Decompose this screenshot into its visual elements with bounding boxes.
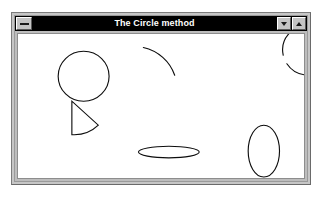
shape-tall-ellipse	[248, 125, 279, 177]
page-root: The Circle method	[0, 0, 322, 197]
window-inner-frame: The Circle method	[14, 15, 308, 182]
shape-pie-wedge	[72, 101, 98, 135]
window-menu-icon	[20, 23, 29, 25]
shape-canvas	[18, 34, 304, 178]
system-menu-button[interactable]	[16, 17, 32, 30]
shape-open-c-arc	[283, 34, 304, 75]
title-bar-buttons	[277, 17, 306, 30]
title-bar[interactable]: The Circle method	[15, 16, 307, 31]
shape-full-circle	[58, 51, 109, 101]
triangle-up-icon	[296, 22, 302, 26]
triangle-down-icon	[281, 22, 287, 26]
window-title: The Circle method	[32, 17, 277, 30]
application-window: The Circle method	[11, 12, 311, 185]
minimize-button[interactable]	[277, 17, 291, 30]
maximize-button[interactable]	[292, 17, 306, 30]
shape-quarter-arc	[143, 47, 174, 75]
shape-flat-ellipse	[138, 146, 199, 158]
client-drawing-area[interactable]	[17, 33, 305, 179]
